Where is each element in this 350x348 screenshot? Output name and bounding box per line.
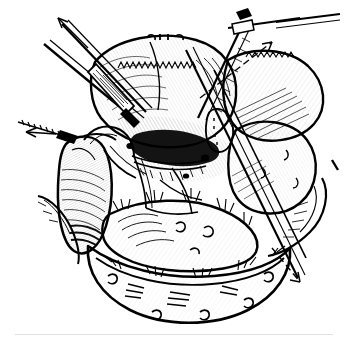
surgical-anatomy-illustration xyxy=(0,0,350,348)
figure-page: Operative exposure of the hepatobiliary … xyxy=(0,0,350,348)
bottom-hairline-rule xyxy=(15,334,333,335)
